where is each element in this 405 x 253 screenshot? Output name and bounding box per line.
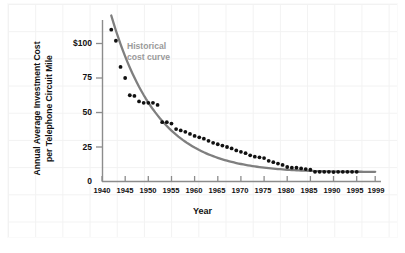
data-point [119, 65, 123, 69]
data-point [262, 156, 266, 160]
data-point [267, 159, 271, 163]
data-point [160, 120, 164, 124]
data-point [197, 135, 201, 139]
data-point [276, 162, 280, 166]
data-point [216, 142, 220, 146]
data-point [142, 101, 146, 105]
data-point [271, 160, 275, 164]
data-point [137, 100, 141, 104]
data-point [308, 168, 312, 172]
historical-cost-curve-path [111, 15, 375, 171]
data-point [156, 103, 160, 107]
data-point [234, 149, 238, 153]
data-point [281, 163, 285, 167]
data-point [350, 170, 354, 174]
data-point [248, 153, 252, 157]
data-point [299, 166, 303, 170]
data-point [109, 28, 113, 32]
data-point [220, 144, 224, 148]
data-point [207, 139, 211, 143]
data-point [327, 170, 331, 174]
data-point [285, 165, 289, 169]
data-point [322, 170, 326, 174]
data-point [146, 101, 150, 105]
data-point [151, 101, 155, 105]
data-point [355, 170, 359, 174]
data-point [346, 170, 350, 174]
data-point [253, 155, 257, 159]
data-point [244, 151, 248, 155]
data-point [295, 166, 299, 170]
chart-figure: Annual Average Investment Cost per Telep… [0, 0, 405, 253]
data-point [341, 170, 345, 174]
data-point [290, 166, 294, 170]
data-point [170, 122, 174, 126]
data-point [318, 170, 322, 174]
data-point [193, 134, 197, 138]
plot-area [0, 0, 405, 253]
data-point [332, 170, 336, 174]
data-point [174, 127, 178, 131]
x-axis-ticks [102, 176, 375, 182]
y-axis-ticks [96, 44, 102, 148]
data-point [114, 39, 118, 43]
data-point [211, 141, 215, 145]
data-point [179, 129, 183, 133]
data-point [313, 170, 317, 174]
data-point [202, 137, 206, 141]
data-point [183, 130, 187, 134]
data-point [258, 155, 262, 159]
data-point [165, 120, 169, 124]
data-point [133, 94, 137, 98]
data-point [230, 146, 234, 150]
data-point [123, 76, 127, 80]
data-point [128, 93, 132, 97]
data-point [336, 170, 340, 174]
data-point [225, 145, 229, 149]
data-point [239, 150, 243, 154]
data-point [304, 167, 308, 171]
data-point [188, 132, 192, 136]
